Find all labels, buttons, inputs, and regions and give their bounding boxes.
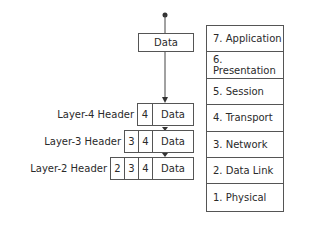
osi-layer-application: 7. Application [207, 26, 283, 52]
layer-2-header-label: Layer-2 Header [30, 157, 107, 180]
osi-layer-transport: 4. Transport [207, 105, 283, 131]
header-cell-4: 4 [139, 131, 153, 152]
top-data-box: Data [138, 33, 194, 52]
layer-3-frame: 3 4 Data [124, 130, 194, 153]
header-cell-4: 4 [138, 104, 153, 125]
layer-4-frame: 4 Data [137, 103, 194, 126]
data-cell: Data [153, 158, 193, 179]
header-cell-2: 2 [111, 158, 125, 179]
header-cell-4: 4 [139, 158, 153, 179]
osi-layer-session: 5. Session [207, 79, 283, 105]
osi-layer-stack: 7. Application 6. Presentation 5. Sessio… [206, 25, 284, 212]
header-cell-3: 3 [125, 158, 139, 179]
osi-layer-presentation: 6. Presentation [207, 52, 283, 78]
osi-layer-physical: 1. Physical [207, 184, 283, 210]
header-cell-3: 3 [125, 131, 139, 152]
layer-3-header-label: Layer-3 Header [44, 130, 121, 153]
data-cell: Data [153, 104, 193, 125]
osi-layer-network: 3. Network [207, 132, 283, 158]
osi-layer-data-link: 2. Data Link [207, 158, 283, 184]
layer-2-frame: 2 3 4 Data [110, 157, 194, 180]
top-data-label: Data [154, 37, 178, 48]
layer-4-header-label: Layer-4 Header [57, 103, 134, 126]
data-cell: Data [153, 131, 193, 152]
